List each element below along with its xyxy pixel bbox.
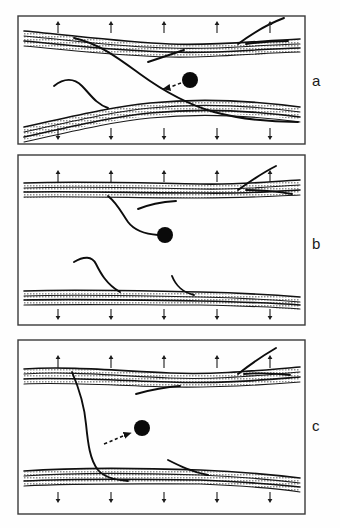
panel-b-marker-dot: [157, 227, 173, 243]
panel-b: [0, 152, 340, 330]
panel-a-top-arrows: [56, 21, 273, 33]
panel-c-shear-trace: [72, 372, 128, 481]
panel-a-upper-band: [24, 31, 300, 57]
panel-c-lower-band: [24, 468, 300, 492]
panel-b-bottom-arrows: [56, 309, 273, 320]
panel-c-dashed-arrow: [104, 433, 131, 444]
panel-b-curve-to-dot: [108, 196, 158, 235]
panel-b-lower-band: [24, 290, 300, 310]
panel-b-curve-upper-right: [138, 201, 176, 209]
panel-label-b: b: [312, 235, 320, 252]
panel-label-a: a: [312, 72, 320, 89]
panel-a: [0, 0, 340, 150]
panel-c-bottom-arrows: [56, 492, 273, 503]
panel-c: [0, 336, 340, 528]
panel-a-bottom-arrows: [56, 128, 273, 140]
panel-a-dashed-arrow: [163, 83, 181, 89]
panel-c-top-arrows: [56, 355, 273, 368]
panel-b-upper-band: [24, 180, 300, 198]
panel-b-curve-lower-left: [74, 258, 120, 292]
panel-a-curve-left: [54, 80, 108, 108]
panel-b-top-arrows: [56, 170, 273, 182]
panel-label-c: c: [312, 417, 320, 434]
panel-a-lower-band: [24, 100, 300, 142]
panel-c-upper-band: [24, 367, 300, 387]
panel-a-marker-dot: [182, 72, 198, 88]
panel-c-marker-dot: [134, 420, 150, 436]
figure-root: a: [0, 0, 340, 528]
